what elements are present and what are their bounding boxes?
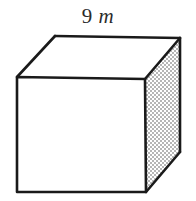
cube-figure: 9 m [0, 0, 196, 201]
dimension-unit: m [99, 4, 115, 28]
cube-front-face [17, 77, 146, 192]
dimension-label: 9 m [0, 3, 196, 29]
cube-svg [0, 0, 196, 201]
dimension-value: 9 [82, 4, 93, 28]
